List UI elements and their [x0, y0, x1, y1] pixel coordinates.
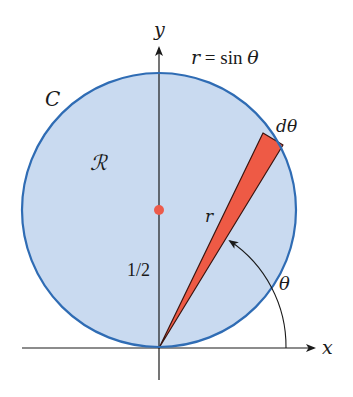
dtheta-label: dθ [276, 116, 297, 136]
polar-diagram: y x r = sin θ C ℛ dθ r 1/2 θ [0, 0, 353, 397]
center-dot [154, 205, 164, 215]
region-R-label: ℛ [90, 151, 108, 175]
y-axis-label: y [153, 18, 165, 40]
theta-label: θ [279, 273, 290, 294]
curve-C-label: C [45, 87, 60, 111]
x-axis-label: x [322, 336, 333, 358]
equation-label: r = sin θ [191, 46, 259, 68]
half-label: 1/2 [127, 260, 150, 280]
radius-r-label: r [205, 206, 214, 226]
